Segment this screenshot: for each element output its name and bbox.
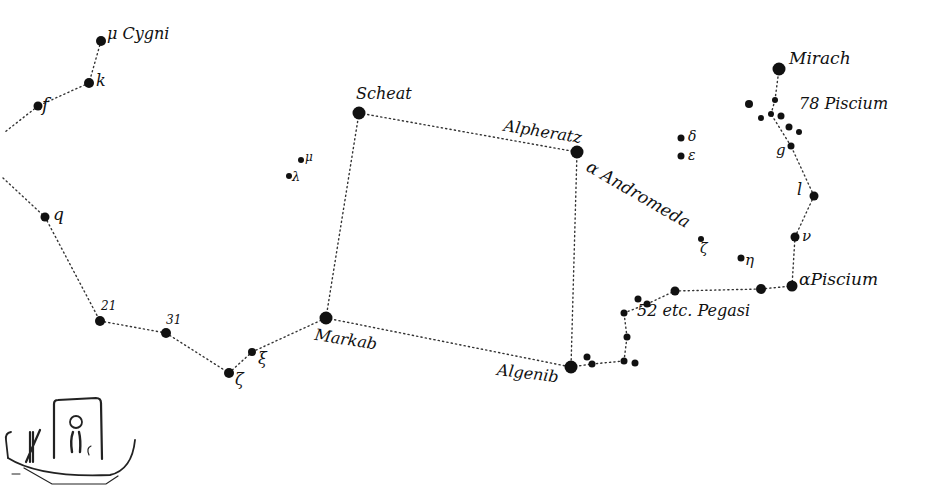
- constellation-line: [326, 113, 359, 318]
- label-g: g: [776, 143, 786, 158]
- star-p2: [589, 361, 596, 368]
- constellation-line: [624, 337, 627, 361]
- star-zeta: [224, 368, 234, 378]
- label-piscium78: 78 Piscium: [799, 96, 888, 112]
- label-alpha-piscium: αPiscium: [799, 271, 878, 288]
- star-l: [810, 192, 819, 201]
- star-p9: [671, 287, 680, 296]
- egyptian-barque-icon: [6, 398, 135, 484]
- star-p1: [584, 354, 591, 361]
- label-delta: δ: [688, 129, 696, 143]
- star-c2: [772, 97, 778, 103]
- label-zeta: ζ: [235, 372, 244, 388]
- star-mu_peg: [298, 157, 304, 163]
- star-c7: [796, 129, 802, 135]
- label-mu: μ: [305, 151, 313, 163]
- constellation-line: [3, 178, 45, 217]
- label-lambda: λ: [292, 170, 300, 183]
- star-algenib: [565, 361, 578, 374]
- star-xi: [248, 348, 256, 356]
- label-xi: ξ: [258, 351, 267, 367]
- label-f: f: [42, 96, 49, 114]
- star-c4: [768, 111, 774, 117]
- star-eta: [738, 255, 745, 262]
- star-g: [788, 143, 795, 150]
- constellation-line: [592, 361, 624, 364]
- star-q: [41, 213, 50, 222]
- star-epsilon: [678, 153, 685, 160]
- label-nu: ν: [802, 229, 811, 244]
- constellation-line: [675, 289, 761, 291]
- star-p4: [632, 360, 639, 367]
- label-mu-cygni: μ Cygni: [107, 26, 169, 42]
- constellation-line: [100, 321, 166, 333]
- star-alpheratz: [571, 146, 584, 159]
- star-c6: [786, 124, 793, 131]
- star-mirach: [773, 63, 786, 76]
- star-markab: [320, 312, 333, 325]
- label-l: l: [797, 182, 802, 198]
- star-p5: [624, 334, 631, 341]
- star-mu_cyg: [96, 36, 106, 46]
- star-c3: [758, 115, 764, 121]
- star-nu: [791, 233, 800, 242]
- constellation-line: [624, 313, 627, 337]
- star-c1: [745, 100, 753, 108]
- star-p3: [621, 358, 628, 365]
- constellation-line: [5, 106, 38, 132]
- star-p10: [756, 284, 766, 294]
- label-mirach: Mirach: [789, 50, 851, 67]
- star-delta: [678, 135, 685, 142]
- star-scheat: [353, 107, 366, 120]
- label-n21: 21: [101, 300, 116, 312]
- constellation-line: [45, 217, 100, 321]
- label-k: k: [96, 73, 106, 89]
- label-zeta-and: ζ: [700, 241, 708, 255]
- label-eta: η: [745, 253, 754, 268]
- star-s21: [95, 316, 105, 326]
- star-chart: [0, 0, 932, 495]
- label-pegasi: 52 etc. Pegasi: [637, 303, 750, 319]
- star-k: [84, 78, 94, 88]
- star-c5: [778, 113, 785, 120]
- star-alpha_psc: [787, 281, 798, 292]
- label-scheat: Scheat: [356, 86, 412, 102]
- constellation-line: [792, 237, 795, 286]
- label-q: q: [53, 206, 64, 223]
- stars: [34, 36, 819, 378]
- constellation-line: [571, 152, 577, 367]
- star-s31: [161, 328, 171, 338]
- label-epsilon: ε: [688, 148, 696, 162]
- constellation-line: [791, 146, 814, 196]
- star-p6: [621, 310, 628, 317]
- label-n31: 31: [166, 314, 181, 326]
- constellation-line: [166, 333, 229, 373]
